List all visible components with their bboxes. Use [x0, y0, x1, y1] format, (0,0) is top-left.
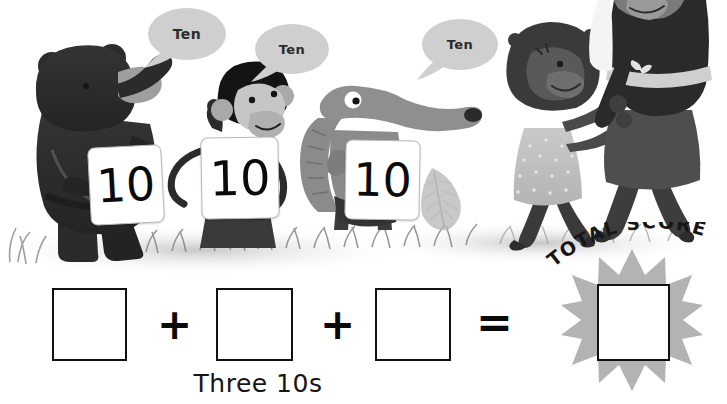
speech-tail-anteater	[415, 52, 447, 82]
number-card-anteater: 10	[344, 139, 420, 220]
number-card-bear-value: 10	[95, 157, 156, 214]
worksheet-page: Ten Ten Ten 10 10 10	[0, 0, 727, 404]
total-score-box[interactable]	[597, 284, 670, 361]
palm-leaf	[421, 168, 461, 230]
speech-bubble-monkey-text: Ten	[279, 42, 306, 57]
number-card-bear: 10	[87, 144, 165, 226]
number-card-monkey: 10	[200, 136, 279, 219]
equals-sign: =	[476, 300, 513, 344]
answer-box-2[interactable]	[216, 288, 293, 361]
speech-tail-monkey	[249, 56, 281, 84]
number-card-monkey-value: 10	[209, 149, 271, 206]
plus-sign-1: +	[157, 304, 192, 346]
speech-bubble-bear-text: Ten	[173, 26, 202, 42]
answer-box-1[interactable]	[52, 288, 127, 361]
caption-three-tens: Three 10s	[0, 369, 516, 398]
speech-tail-bear	[142, 42, 176, 70]
speech-bubble-anteater: Ten	[422, 19, 498, 70]
speech-bubble-bear: Ten	[148, 8, 226, 60]
plus-sign-2: +	[320, 304, 355, 346]
speech-bubble-anteater-text: Ten	[447, 37, 474, 52]
answer-box-3[interactable]	[375, 288, 451, 361]
adult-character	[589, 0, 712, 242]
speech-bubble-monkey: Ten	[255, 24, 329, 74]
number-card-anteater-value: 10	[353, 152, 412, 207]
